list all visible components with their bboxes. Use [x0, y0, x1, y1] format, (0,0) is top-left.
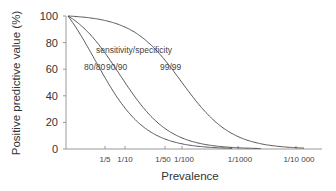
curve-90-90 — [68, 16, 261, 149]
curve-99-99 — [68, 16, 304, 148]
y-tick-label: 20 — [46, 116, 58, 128]
y-tick-label: 100 — [40, 10, 58, 22]
y-tick-label: 60 — [46, 63, 58, 75]
x-tick-label: 1/10 — [117, 155, 133, 164]
x-tick-label: 1/1000 — [228, 155, 253, 164]
y-axis-label: Positive predictive value (%) — [10, 11, 22, 156]
x-tick-label: 1/100 — [174, 155, 195, 164]
legend-title: sensitivity/specificity — [96, 45, 173, 55]
x-tick-label: 1/5 — [99, 155, 111, 164]
y-tick-label: 0 — [52, 143, 58, 155]
x-tick-label: 1/10 000 — [283, 155, 315, 164]
ppv-chart: 0 20 40 60 80 100 1/5 1/10 1/50 1/100 1/… — [0, 0, 336, 191]
y-tick-label: 80 — [46, 37, 58, 49]
x-tick-label: 1/50 — [155, 155, 171, 164]
series-label-90-90: 90/90 — [106, 62, 128, 72]
series-label-99-99: 99/99 — [160, 62, 182, 72]
curve-80-80 — [68, 16, 232, 148]
curves — [68, 16, 304, 149]
series-label-80-80: 80/80 — [84, 62, 106, 72]
x-axis-label: Prevalence — [161, 170, 219, 182]
y-tick-label: 40 — [46, 90, 58, 102]
